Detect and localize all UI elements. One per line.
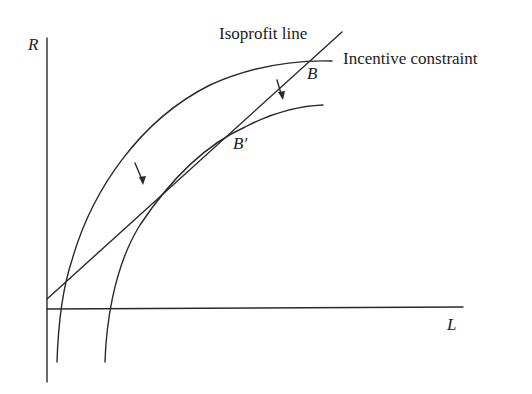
- point-b-prime-label: B′: [233, 135, 247, 152]
- incentive-constraint-label: Incentive constraint: [343, 50, 478, 67]
- isoprofit-line: [47, 32, 342, 299]
- arrowhead-right-icon: [278, 91, 285, 100]
- isoprofit-line-label: Isoprofit line: [219, 25, 307, 42]
- incentive-constraint-curve-upper: [57, 61, 332, 362]
- incentive-constraint-curve-lower: [105, 105, 323, 362]
- y-axis-label: R: [28, 36, 38, 53]
- arrowhead-left-icon: [139, 176, 146, 185]
- x-axis-label: L: [447, 316, 456, 333]
- x-axis: [47, 307, 463, 309]
- point-b-label: B: [307, 65, 317, 82]
